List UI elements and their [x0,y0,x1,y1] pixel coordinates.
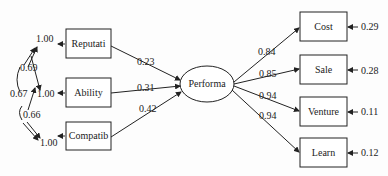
coef-reputati-performa: 0.23 [137,57,155,67]
node-sale-label: Sale [300,65,347,75]
cov-ability-compatib: 0.66 [23,110,41,120]
loading-venture: 0.94 [259,91,277,101]
node-reputati-label: Reputati [66,39,111,49]
loading-learn: 0.94 [259,111,277,121]
node-ability-label: Ability [66,88,111,98]
error-learn: 0.12 [361,148,379,158]
node-cost-label: Cost [300,22,347,32]
error-sale: 0.28 [361,66,379,76]
node-performa-label: Performa [180,79,234,89]
variance-ability: 1.00 [37,89,55,99]
node-compatib-label: Compatib [66,131,111,141]
coef-ability-performa: 0.31 [137,83,155,93]
error-cost: 0.29 [361,22,379,32]
path-compatib-performa [111,92,181,137]
cov-0.66-up [28,88,35,110]
sem-diagram: Reputati Ability Compatib Performa Cost … [0,0,388,176]
loading-cost: 0.84 [258,47,276,57]
node-venture-label: Venture [300,107,347,117]
cov-reputati-compatib: 0.67 [10,89,28,99]
variance-compatib: 1.00 [40,138,58,148]
variance-reputati: 1.00 [36,34,54,44]
loading-sale: 0.85 [259,69,277,79]
cov-0.67-arc-bottom [20,106,23,120]
coef-compatib-performa: 0.42 [139,104,157,114]
error-venture: 0.11 [361,107,378,117]
cov-reputati-ability: 0.69 [20,63,38,73]
node-learn-label: Learn [300,148,347,158]
